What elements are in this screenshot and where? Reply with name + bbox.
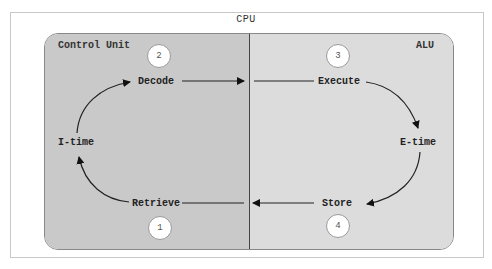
arrow-execute-to-etime	[366, 82, 418, 128]
flow-arrows	[0, 0, 492, 269]
arrow-etime-to-store	[367, 152, 420, 204]
arrow-itime-to-decode	[77, 82, 130, 133]
arrow-retrieve-to-itime	[79, 157, 129, 202]
